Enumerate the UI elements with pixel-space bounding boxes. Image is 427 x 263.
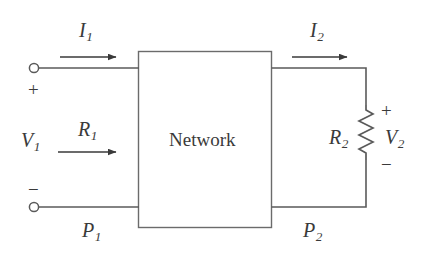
label-r1: R1	[78, 119, 97, 142]
label-i1: I1	[79, 20, 93, 43]
output-top-wire	[272, 68, 367, 105]
label-v1: V1	[21, 130, 40, 153]
label-v2: V2	[385, 127, 404, 150]
circuit-diagram-canvas: I1 I2 V1 R1 R2 V2 P1 P2 + − + − Network	[0, 0, 427, 263]
input-plus-sign: +	[28, 80, 39, 99]
label-p1: P1	[82, 220, 101, 243]
resistor-r2-symbol	[359, 105, 373, 160]
label-i2: I2	[310, 20, 324, 43]
label-r2: R2	[329, 127, 348, 150]
output-plus-sign: +	[381, 101, 392, 120]
input-bottom-terminal	[29, 202, 38, 211]
label-p2: P2	[303, 220, 322, 243]
output-minus-sign: −	[381, 155, 392, 174]
network-block-label: Network	[169, 129, 235, 151]
input-minus-sign: −	[28, 180, 39, 199]
output-bottom-wire	[272, 160, 367, 207]
input-top-terminal	[29, 63, 38, 72]
